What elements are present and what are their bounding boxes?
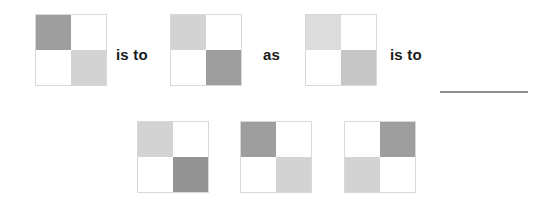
prompt-tile-b-cell-bottom-right [206, 50, 241, 85]
prompt-tile-c-cell-top-right [341, 15, 376, 50]
prompt-tile-b [170, 14, 242, 86]
prompt-tile-c-cell-bottom-left [306, 50, 341, 85]
option-tile-3-cell-top-left [345, 122, 380, 157]
option-tile-2-cell-top-left [241, 122, 276, 157]
connector-is-to-1: is to [116, 47, 148, 62]
prompt-tile-c-cell-top-left [306, 15, 341, 50]
option-tile-1-cell-top-left [138, 122, 173, 157]
option-tile-2-cell-top-right [276, 122, 311, 157]
answer-blank-line[interactable] [440, 91, 528, 93]
option-tile-1-cell-bottom-left [138, 157, 173, 192]
option-tile-2-cell-bottom-right [276, 157, 311, 192]
prompt-tile-c-cell-bottom-right [341, 50, 376, 85]
prompt-tile-a-cell-bottom-left [36, 50, 71, 85]
option-tile-1-cell-bottom-right [173, 157, 208, 192]
option-tile-3[interactable] [344, 121, 416, 193]
prompt-tile-b-cell-bottom-left [171, 50, 206, 85]
option-tile-1-cell-top-right [173, 122, 208, 157]
prompt-tile-a-cell-top-right [71, 15, 106, 50]
prompt-tile-a-cell-bottom-right [71, 50, 106, 85]
prompt-tile-b-cell-top-right [206, 15, 241, 50]
option-tile-3-cell-bottom-left [345, 157, 380, 192]
connector-is-to-2: is to [390, 47, 422, 62]
option-tile-3-cell-top-right [380, 122, 415, 157]
option-tile-2[interactable] [240, 121, 312, 193]
option-tile-3-cell-bottom-right [380, 157, 415, 192]
prompt-tile-c [305, 14, 377, 86]
option-tile-1[interactable] [137, 121, 209, 193]
prompt-tile-a [35, 14, 107, 86]
prompt-tile-a-cell-top-left [36, 15, 71, 50]
prompt-tile-b-cell-top-left [171, 15, 206, 50]
connector-as: as [263, 47, 280, 62]
option-tile-2-cell-bottom-left [241, 157, 276, 192]
analogy-puzzle: is to as is to [0, 0, 557, 213]
